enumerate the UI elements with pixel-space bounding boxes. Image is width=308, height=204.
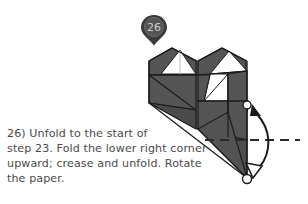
- instruction-text: 26) Unfold to the start of step 23. Fold…: [7, 126, 207, 186]
- page-root: 26 26) Unfold to the start of step 23. F…: [0, 0, 308, 204]
- map-pin-icon[interactable]: 26: [141, 15, 167, 46]
- arrow-endpoint-top-circle: [243, 101, 251, 109]
- arrow-endpoint-bottom-circle: [243, 175, 252, 184]
- arrow-head-filled-top: [250, 104, 261, 116]
- pin-step-number: 26: [147, 21, 161, 34]
